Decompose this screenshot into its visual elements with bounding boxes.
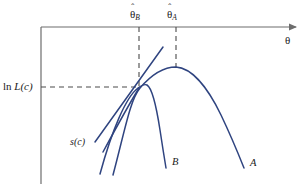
curve-A-path <box>113 67 244 175</box>
curve-A-label: A <box>250 158 256 169</box>
y-axis-label: ln L(c) <box>3 81 33 92</box>
score-function-label: s(c) <box>70 137 85 147</box>
curve-B-label: B <box>172 157 178 168</box>
y-axis-label-italic: L(c) <box>14 80 32 92</box>
subscript-B: B <box>135 13 140 22</box>
subscript-A: A <box>172 13 177 22</box>
curve-B-label-text: B <box>172 156 178 167</box>
x-axis-label-text: θ <box>285 34 290 46</box>
likelihood-plot-figure: ln L(c) θ ˆθB ˆθA s(c) B A <box>0 0 308 188</box>
x-axis-label: θ <box>285 35 290 46</box>
tick-label-theta-hat-B: ˆθB <box>130 9 140 20</box>
y-axis-label-prefix: ln <box>3 80 14 92</box>
score-function-label-text: s(c) <box>70 136 85 147</box>
plot-canvas <box>0 0 308 188</box>
tick-label-theta-hat-A: ˆθA <box>167 9 177 20</box>
hat-accent-B: ˆ <box>131 3 134 12</box>
curve-A-label-text: A <box>250 157 256 168</box>
axis-lines <box>41 27 296 184</box>
hat-accent-A: ˆ <box>168 3 171 12</box>
curve-group <box>95 47 244 175</box>
